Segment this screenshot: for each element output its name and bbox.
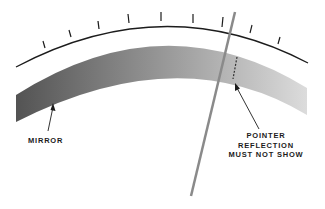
meter-diagram: MIRROR POINTER REFLECTION MUST NOT SHOW: [0, 0, 325, 209]
pointer-label-line-2: REFLECTION: [220, 141, 312, 151]
pointer-label-line-1: POINTER: [220, 131, 312, 141]
mirror-arrow: [48, 103, 56, 131]
mirror-label: MIRROR: [28, 136, 63, 146]
meter-pointer: [191, 12, 235, 196]
meter-scale-drawing: [0, 0, 325, 209]
pointer-reflection-label: POINTER REFLECTION MUST NOT SHOW: [220, 131, 312, 160]
mirror-band: [16, 46, 307, 122]
scale-ticks: [43, 12, 280, 48]
pointer-label-line-3: MUST NOT SHOW: [220, 150, 312, 160]
